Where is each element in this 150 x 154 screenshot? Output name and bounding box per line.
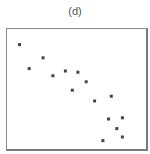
plot-area (6, 28, 148, 151)
data-point-12 (121, 116, 124, 119)
data-point-6 (76, 71, 79, 74)
panel-label: (d) (0, 5, 150, 17)
data-point-14 (121, 136, 124, 139)
data-point-10 (110, 95, 113, 98)
data-point-3 (42, 56, 45, 59)
scatter-plot (7, 29, 146, 149)
data-point-4 (51, 74, 54, 77)
data-point-9 (93, 100, 96, 103)
data-point-5 (64, 70, 67, 73)
data-point-11 (107, 118, 110, 121)
data-point-7 (85, 80, 88, 83)
data-point-8 (71, 89, 74, 92)
data-point-15 (101, 139, 104, 142)
data-point-13 (115, 127, 118, 130)
data-point-1 (18, 43, 21, 46)
data-point-2 (28, 67, 31, 70)
